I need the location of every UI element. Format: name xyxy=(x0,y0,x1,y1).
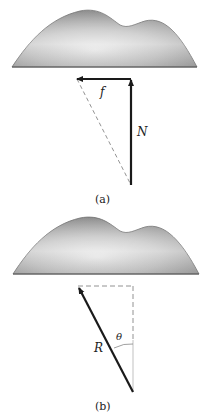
theta-arc xyxy=(114,344,133,348)
resultant-vector-arrow xyxy=(79,288,133,392)
friction-label: f xyxy=(99,85,107,99)
resultant-label: R xyxy=(93,341,103,355)
panel-a-caption: (a) xyxy=(95,193,110,206)
panel-b: R θ (b) xyxy=(13,217,199,413)
theta-label: θ xyxy=(116,331,122,342)
panel-b-caption: (b) xyxy=(95,400,111,413)
body-block-icon xyxy=(12,10,197,67)
force-diagram: f N (a) R θ (b) xyxy=(0,0,207,420)
body-block-icon xyxy=(13,217,199,274)
normal-label: N xyxy=(136,125,148,139)
panel-a: f N (a) xyxy=(12,10,197,206)
